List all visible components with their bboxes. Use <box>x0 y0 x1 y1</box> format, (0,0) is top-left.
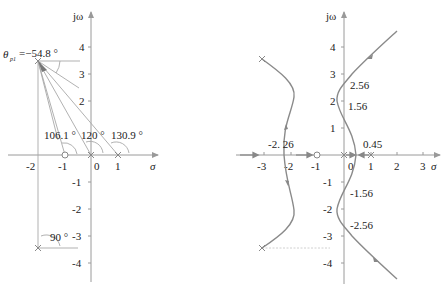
right-ytick-neg3: -3 <box>323 230 333 242</box>
annot-0-45: 0.45 <box>363 138 383 150</box>
right-xtick-neg1: -1 <box>311 160 320 172</box>
left-ytick-2: 2 <box>79 95 85 107</box>
theta-subscript: p1 <box>9 56 16 62</box>
right-ytick-4: 4 <box>330 41 336 53</box>
arc-130 <box>111 142 129 153</box>
left-xtick-0: 0 <box>94 160 100 172</box>
right-sigma-label: σ <box>431 160 437 172</box>
angle-90-label: 90 ° <box>50 231 68 243</box>
angle-130-label: 130.9 ° <box>111 129 143 141</box>
right-plot-root-locus: -3 -2 -1 0 1 2 3 4 3 2 1 -1 -2 -3 -4 <box>236 10 440 284</box>
locus-arrow-left-top <box>284 124 288 130</box>
left-sigma-label: σ <box>150 160 156 172</box>
angle-120-label: 120 ° <box>81 129 105 141</box>
theta-label: θ <box>3 48 9 60</box>
annot-2-56: 2.56 <box>350 79 370 91</box>
left-zero-neg1 <box>62 152 68 158</box>
right-ytick-neg4: -4 <box>323 257 333 269</box>
locus-branch-right-lower <box>337 155 397 279</box>
right-xtick-1: 1 <box>368 160 374 172</box>
left-plot-angle-construction: 4 3 2 -1 -2 -3 -4 -2 -1 0 1 jω σ <box>3 10 158 282</box>
left-ytick-neg1: -1 <box>72 176 81 188</box>
departure-angle-arc <box>56 61 60 73</box>
left-xtick-neg1: -1 <box>58 160 67 172</box>
left-ytick-neg3: -3 <box>72 230 82 242</box>
right-ytick-2: 2 <box>330 95 336 107</box>
annot-neg-2-56: -2.56 <box>350 219 373 231</box>
right-jw-label: jω <box>325 10 336 22</box>
right-pole-p2 <box>259 245 265 251</box>
left-ytick-neg4: -4 <box>72 257 82 269</box>
right-xtick-2: 2 <box>394 160 400 172</box>
left-xtick-1: 1 <box>115 160 121 172</box>
left-x-ticks: -2 -1 0 1 <box>26 160 121 172</box>
right-pole-p1 <box>259 56 265 62</box>
left-ytick-3: 3 <box>79 68 85 80</box>
right-xtick-neg3: -3 <box>257 160 267 172</box>
departure-angle-value: =−54.8 ° <box>19 47 58 59</box>
right-ytick-3: 3 <box>330 68 336 80</box>
annot-neg-1-56: -1.56 <box>350 187 373 199</box>
locus-branch-left <box>262 59 294 248</box>
angle-106-label: 106.1 ° <box>44 129 76 141</box>
left-jw-label: jω <box>72 10 83 22</box>
annot-1-56: 1.56 <box>348 100 368 112</box>
locus-branch-right-upper <box>337 31 397 155</box>
right-ytick-neg2: -2 <box>323 203 332 215</box>
left-xtick-neg2: -2 <box>26 160 35 172</box>
right-ytick-neg1: -1 <box>323 176 332 188</box>
right-ytick-1: 1 <box>330 122 336 134</box>
right-zero-neg1 <box>314 152 320 158</box>
left-ytick-4: 4 <box>79 41 85 53</box>
root-locus-figure: 4 3 2 -1 -2 -3 -4 -2 -1 0 1 jω σ <box>0 0 448 288</box>
right-xtick-3: 3 <box>420 160 426 172</box>
left-ytick-neg2: -2 <box>72 203 81 215</box>
annot-neg-2-26: -2. 26 <box>268 138 294 150</box>
